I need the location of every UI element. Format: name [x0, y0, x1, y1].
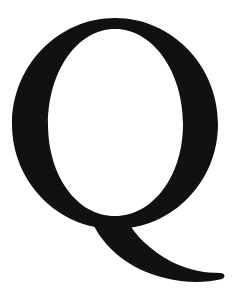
letter-q-glyph: [0, 0, 236, 295]
canvas: Q: [0, 0, 236, 295]
q-tail: [92, 222, 224, 282]
q-bowl: [12, 18, 218, 229]
